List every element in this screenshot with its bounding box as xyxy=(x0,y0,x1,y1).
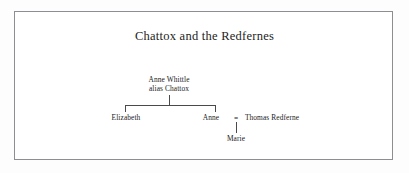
connector-drop-elizabeth xyxy=(125,105,126,112)
connector-parent-stem xyxy=(169,95,170,105)
node-marie: Marie xyxy=(227,135,245,144)
connector-sibling-bar xyxy=(125,105,216,106)
node-anne-whittle: Anne Whittle alias Chattox xyxy=(148,76,189,93)
node-anne: Anne xyxy=(203,114,219,123)
node-anne-whittle-line2: alias Chattox xyxy=(148,85,189,94)
node-thomas-redferne: Thomas Redferne xyxy=(245,114,299,123)
marriage-symbol: = xyxy=(234,114,238,123)
node-elizabeth: Elizabeth xyxy=(112,114,141,123)
connector-descent-marie xyxy=(236,122,237,133)
connector-drop-anne xyxy=(215,105,216,112)
figure-title: Chattox and the Redfernes xyxy=(0,29,409,44)
genealogy-figure: Chattox and the Redfernes Anne Whittle a… xyxy=(0,0,409,173)
